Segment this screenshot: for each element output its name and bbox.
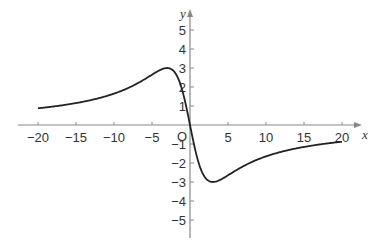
origin-label: O — [177, 129, 187, 144]
x-axis-arrow-icon — [354, 122, 362, 128]
y-tick-label: −4 — [171, 194, 186, 209]
x-axis-label: x — [361, 127, 368, 142]
y-tick-label: −3 — [171, 175, 186, 190]
y-tick-label: −5 — [171, 213, 186, 228]
y-tick-label: −2 — [171, 156, 186, 171]
chart: −20−15−10−55101520−5−4−3−2−112345 x y O — [0, 0, 380, 246]
y-axis-label: y — [178, 6, 186, 21]
x-tick-label: −5 — [145, 130, 160, 145]
x-tick-label: −20 — [27, 130, 49, 145]
x-tick-label: 5 — [224, 130, 231, 145]
x-tick-label: 10 — [259, 130, 273, 145]
y-tick-label: 5 — [179, 23, 186, 38]
x-tick-label: 15 — [297, 130, 311, 145]
y-axis-arrow-icon — [187, 9, 193, 17]
y-tick-label: 3 — [179, 61, 186, 76]
y-tick-label: 4 — [179, 42, 186, 57]
x-tick-label: −10 — [103, 130, 125, 145]
x-tick-label: −15 — [65, 130, 87, 145]
